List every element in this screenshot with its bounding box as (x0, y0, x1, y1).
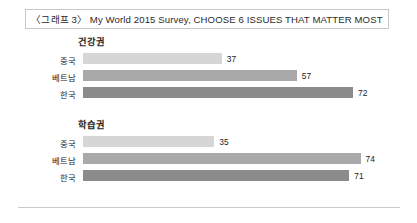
bottom-divider (18, 207, 400, 208)
bar-row: 베트남 74 (0, 152, 417, 166)
bar-fill (83, 53, 222, 64)
bar-fill (83, 153, 361, 164)
bar-category-label: 베트남 (38, 154, 76, 166)
bar-value-label: 71 (354, 171, 363, 181)
bar-rows-health: 중국 37 베트남 57 한국 72 (0, 52, 417, 103)
bar-category-label: 한국 (38, 171, 76, 183)
figure-caption-box: 〈그래프 3〉 My World 2015 Survey, CHOOSE 6 I… (25, 9, 389, 29)
bar-category-label: 베트남 (38, 71, 76, 83)
bar-track: 57 (83, 70, 383, 81)
figure-caption-text: 〈그래프 3〉 My World 2015 Survey, CHOOSE 6 I… (31, 12, 382, 26)
bar-row: 한국 72 (0, 86, 417, 100)
bar-track: 71 (83, 170, 383, 181)
chart-title-health: 건강권 (78, 34, 105, 48)
bar-rows-learning: 중국 35 베트남 74 한국 71 (0, 135, 417, 186)
figure-root: 〈그래프 3〉 My World 2015 Survey, CHOOSE 6 I… (0, 0, 417, 223)
bar-category-label: 중국 (38, 137, 76, 149)
bar-value-label: 37 (227, 54, 236, 64)
bar-track: 72 (83, 87, 383, 98)
bar-track: 74 (83, 153, 383, 164)
bar-value-label: 74 (366, 154, 375, 164)
bar-value-label: 72 (358, 88, 367, 98)
bar-category-label: 한국 (38, 88, 76, 100)
bar-row: 한국 71 (0, 169, 417, 183)
chart-title-learning: 학습권 (78, 117, 105, 131)
bar-row: 중국 37 (0, 52, 417, 66)
bar-fill (83, 87, 353, 98)
bar-fill (83, 170, 349, 181)
bar-fill (83, 136, 214, 147)
bar-track: 37 (83, 53, 383, 64)
bar-row: 베트남 57 (0, 69, 417, 83)
bar-track: 35 (83, 136, 383, 147)
bar-fill (83, 70, 297, 81)
bar-value-label: 35 (219, 137, 228, 147)
bar-row: 중국 35 (0, 135, 417, 149)
bar-category-label: 중국 (38, 54, 76, 66)
bar-value-label: 57 (302, 71, 311, 81)
